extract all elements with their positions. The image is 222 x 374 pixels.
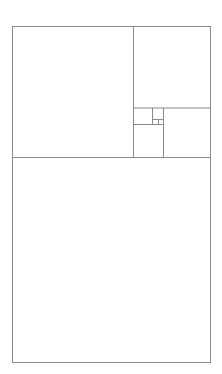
subdivision-lines <box>13 27 211 158</box>
golden-rectangle-diagram <box>0 0 222 374</box>
outer-rectangle <box>13 27 211 363</box>
